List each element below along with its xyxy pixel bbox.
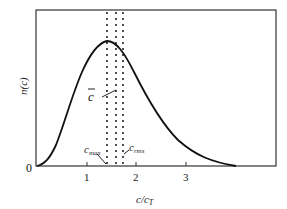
c-rms-label: crms [129,141,145,155]
x-axis-label-main: c/c [136,193,149,205]
y-axis-label: n(c) [17,77,30,95]
x-tick-label-2: 2 [133,171,139,183]
c-max-sub: max [89,149,102,157]
x-tick-label-3: 3 [183,171,189,183]
distribution-plot: 0 1 2 3 c/cT n(c) c cmax crms [0,0,287,209]
c-max-label: cmax [84,143,101,157]
x-axis-label-sub: T [149,198,154,207]
origin-label: 0 [26,161,32,175]
marker-lines [107,12,123,166]
c-mean-label: c [88,89,94,104]
plot-frame [36,10,276,166]
x-ticks [87,162,186,166]
c-mean-pointer [102,90,116,97]
c-rms-sub: rms [134,147,145,155]
x-tick-label-1: 1 [84,171,90,183]
x-axis-label: c/cT [136,193,154,207]
